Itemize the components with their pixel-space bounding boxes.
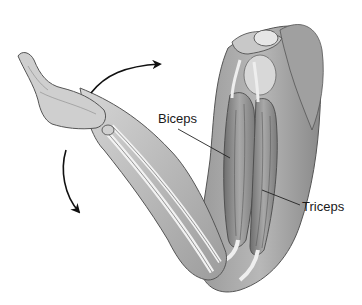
extension-arrow xyxy=(63,150,79,212)
biceps-label: Biceps xyxy=(158,112,197,125)
arm-illustration xyxy=(0,0,362,305)
arm-anatomy-diagram: Biceps Triceps xyxy=(0,0,362,305)
flexion-arrow xyxy=(91,64,160,93)
triceps-label: Triceps xyxy=(302,200,344,213)
